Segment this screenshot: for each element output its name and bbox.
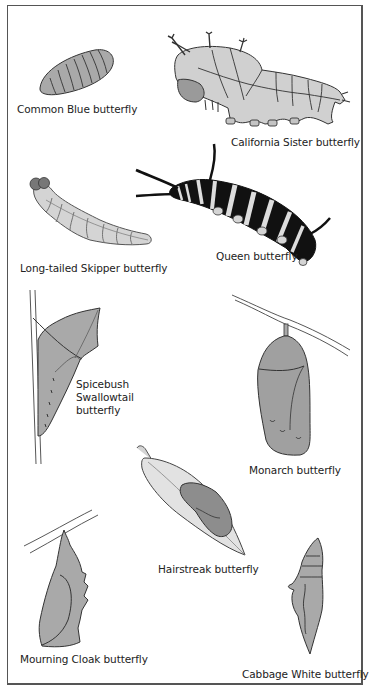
spicebush-swallowtail-chrysalis-illustration xyxy=(30,290,100,464)
label-queen: Queen butterfly xyxy=(216,250,298,263)
common-blue-caterpillar-illustration xyxy=(40,50,113,95)
monarch-chrysalis-illustration xyxy=(232,295,350,455)
label-california-sister: California Sister butterfly xyxy=(231,136,360,149)
label-cabbage-white: Cabbage White butterfly xyxy=(242,668,369,681)
label-monarch: Monarch butterfly xyxy=(249,464,341,477)
label-hairstreak: Hairstreak butterfly xyxy=(158,563,259,576)
label-common-blue: Common Blue butterfly xyxy=(17,103,137,116)
queen-caterpillar-illustration xyxy=(136,144,330,266)
label-line: butterfly xyxy=(76,404,146,417)
mourning-cloak-chrysalis-illustration xyxy=(24,510,98,647)
california-sister-caterpillar-illustration xyxy=(168,32,350,126)
cabbage-white-chrysalis-illustration xyxy=(288,538,323,654)
label-line: Spicebush xyxy=(76,378,146,391)
label-mourning-cloak: Mourning Cloak butterfly xyxy=(20,653,148,666)
label-line: Swallowtail xyxy=(76,391,146,404)
long-tailed-skipper-caterpillar-illustration xyxy=(30,178,151,245)
label-long-tailed-skipper: Long-tailed Skipper butterfly xyxy=(20,262,167,275)
hairstreak-chrysalis-illustration xyxy=(137,446,245,555)
label-spicebush-swallowtail: Spicebush Swallowtail butterfly xyxy=(76,378,146,417)
